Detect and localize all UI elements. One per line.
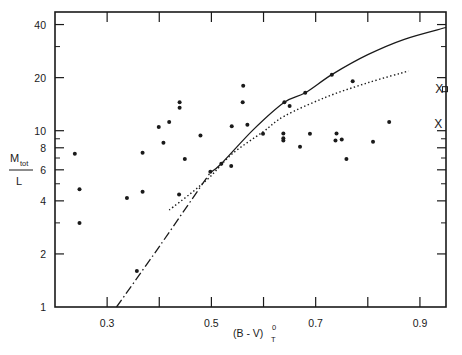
data-point bbox=[308, 132, 312, 136]
data-point bbox=[135, 269, 139, 273]
data-point bbox=[344, 157, 348, 161]
data-point bbox=[340, 138, 344, 142]
data-point bbox=[229, 164, 233, 168]
data-point bbox=[281, 138, 285, 142]
curve-dashdot bbox=[117, 172, 211, 307]
data-point bbox=[261, 132, 265, 136]
data-point bbox=[245, 123, 249, 127]
curve-solid bbox=[210, 28, 446, 173]
x-tick-label: 0.5 bbox=[204, 317, 219, 329]
data-point bbox=[178, 106, 182, 110]
data-point bbox=[125, 196, 129, 200]
x-tick-label: 0.7 bbox=[308, 317, 323, 329]
data-point bbox=[178, 100, 182, 104]
data-points: XX bbox=[73, 73, 448, 273]
model-curves bbox=[117, 28, 447, 308]
data-point bbox=[141, 190, 145, 194]
cross-marker: X bbox=[434, 117, 442, 131]
y-label-denominator: L bbox=[16, 175, 22, 187]
data-point bbox=[298, 145, 302, 149]
x-label-superscript: 0 bbox=[272, 323, 276, 332]
y-tick-label: 6 bbox=[40, 164, 46, 176]
y-tick-label: 1 bbox=[40, 301, 46, 313]
y-tick-label: 10 bbox=[34, 125, 46, 137]
data-point bbox=[387, 120, 391, 124]
data-point bbox=[73, 152, 77, 156]
data-point bbox=[183, 157, 187, 161]
axis-tick-labels: 0.30.50.70.912468102040 bbox=[34, 19, 427, 329]
y-label-numerator-subscript: tot bbox=[20, 159, 29, 168]
data-point bbox=[141, 151, 145, 155]
data-point bbox=[167, 120, 171, 124]
data-point bbox=[303, 91, 307, 95]
x-label-main: (B - V) bbox=[233, 327, 263, 339]
y-axis-label: M tot L bbox=[9, 152, 33, 187]
y-tick-label: 40 bbox=[34, 19, 46, 31]
data-point bbox=[157, 125, 161, 129]
y-label-numerator: M bbox=[10, 152, 19, 164]
data-point bbox=[241, 84, 245, 88]
data-point bbox=[219, 162, 223, 166]
data-point bbox=[208, 170, 212, 174]
y-tick-label: 20 bbox=[34, 72, 46, 84]
data-point bbox=[241, 100, 245, 104]
y-tick-label: 4 bbox=[40, 195, 46, 207]
data-point bbox=[330, 73, 334, 77]
data-point bbox=[281, 131, 285, 135]
data-point bbox=[198, 133, 202, 137]
data-point bbox=[78, 187, 82, 191]
x-label-subscript: T bbox=[271, 335, 276, 344]
x-tick-label: 0.3 bbox=[100, 317, 115, 329]
data-point bbox=[161, 141, 165, 145]
data-point bbox=[371, 140, 375, 144]
data-point bbox=[282, 100, 286, 104]
data-point bbox=[351, 79, 355, 83]
x-axis-label: (B - V) 0 T bbox=[233, 323, 276, 344]
y-tick-label: 2 bbox=[40, 248, 46, 260]
plot-frame bbox=[55, 12, 446, 307]
data-point bbox=[177, 192, 181, 196]
x-tick-label: 0.9 bbox=[413, 317, 428, 329]
chart: 0.30.50.70.912468102040 XX M tot L (B - … bbox=[0, 0, 462, 355]
data-point bbox=[333, 138, 337, 142]
plot-border bbox=[55, 12, 446, 307]
data-point bbox=[78, 221, 82, 225]
y-tick-label: 8 bbox=[40, 142, 46, 154]
data-point bbox=[288, 104, 292, 108]
axis-ticks bbox=[55, 12, 446, 307]
data-point bbox=[230, 124, 234, 128]
data-point bbox=[335, 131, 339, 135]
